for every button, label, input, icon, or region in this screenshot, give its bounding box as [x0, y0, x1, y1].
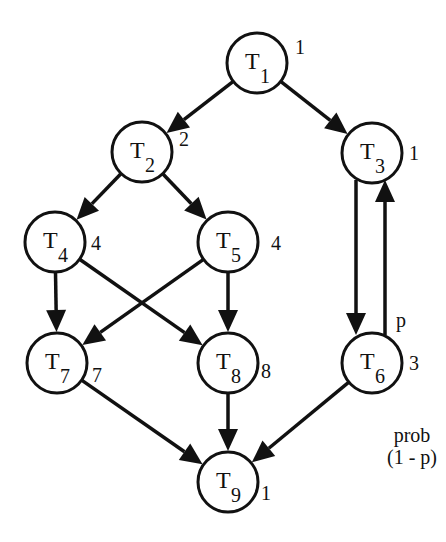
node-weight: 4: [91, 232, 101, 254]
edge-t6-t3: p: [375, 180, 406, 335]
edge-t4-t7: [46, 272, 66, 332]
node-weight: 2: [179, 128, 189, 150]
node-subscript: 8: [231, 365, 241, 387]
node-subscript: 9: [231, 484, 241, 506]
edge-label: prob: [394, 424, 431, 447]
node-weight: 1: [409, 142, 419, 164]
graph-svg: prob(1 - p)pT11T22T31T44T54T63T77T88T91: [0, 0, 446, 542]
node-weight: 8: [261, 360, 271, 382]
node-t4: T44: [25, 212, 101, 272]
node-label: T: [216, 227, 231, 253]
edge-t2-t4: [77, 174, 122, 220]
node-t3: T31: [342, 123, 419, 183]
node-weight: 7: [92, 364, 102, 386]
edge-t1-t3: [281, 81, 348, 133]
node-label: T: [130, 137, 145, 163]
node-weight: 3: [409, 352, 419, 374]
node-weight: 1: [295, 36, 305, 58]
edge-label: p: [396, 309, 406, 332]
node-t9: T91: [198, 452, 271, 512]
node-t1: T11: [227, 33, 305, 93]
edge-t7-t9: [82, 380, 203, 464]
node-subscript: 5: [231, 244, 241, 266]
node-subscript: 3: [375, 155, 385, 177]
node-label: T: [360, 348, 375, 374]
node-label: T: [360, 138, 375, 164]
node-weight: 1: [261, 482, 271, 504]
node-t2: T22: [112, 122, 189, 182]
node-t6: T63: [342, 333, 419, 393]
node-label: T: [216, 467, 231, 493]
edge-t5-t8: [218, 272, 238, 332]
task-graph-diagram: prob(1 - p)pT11T22T31T44T54T63T77T88T91: [0, 0, 446, 542]
node-label: T: [43, 227, 58, 253]
edge-label-probability: (1 - p): [387, 446, 437, 469]
node-t8: T88: [198, 333, 271, 393]
node-subscript: 2: [145, 154, 155, 176]
node-subscript: 7: [60, 365, 70, 387]
node-label: T: [45, 348, 60, 374]
edge-t8-t9: [218, 393, 238, 451]
node-subscript: 6: [375, 365, 385, 387]
edge-t2-t5: [163, 174, 207, 220]
node-subscript: 4: [58, 244, 68, 266]
edge-t1-t2: [167, 81, 234, 133]
node-label: T: [216, 348, 231, 374]
node-subscript: 1: [260, 65, 270, 87]
edge-t6-t9: prob(1 - p): [252, 382, 437, 469]
edge-t3-t6: [346, 180, 366, 335]
node-t5: T54: [198, 212, 281, 272]
node-weight: 4: [271, 232, 281, 254]
node-label: T: [245, 48, 260, 74]
